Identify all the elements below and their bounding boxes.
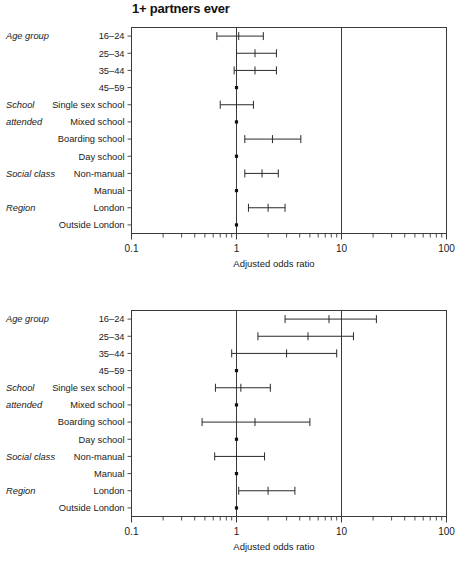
row-label: Single sex school — [52, 100, 124, 110]
row-label: Mixed school — [70, 117, 124, 127]
row-label: 45–59 — [99, 366, 125, 376]
row-label: 25–34 — [99, 49, 125, 59]
row-label: London — [93, 486, 124, 496]
row-label: Mixed school — [70, 400, 124, 410]
row-label: 35–44 — [99, 66, 125, 76]
plot-frame — [132, 311, 447, 517]
group-label: Region — [6, 203, 35, 213]
group-label: Region — [6, 486, 35, 496]
row-label: Day school — [79, 435, 125, 445]
row-label: 16–24 — [99, 31, 125, 41]
plot-frame — [132, 28, 447, 234]
row-label: Day school — [79, 152, 125, 162]
row-label: Non-manual — [74, 169, 125, 179]
group-label: Age group — [5, 31, 49, 41]
forest-plot-partners-last-5-years: 0.1110100Adjusted odds ratio16–2425–3435… — [0, 280, 475, 565]
group-label: School — [6, 100, 35, 110]
group-label: attended — [6, 117, 43, 127]
row-label: Boarding school — [58, 134, 125, 144]
x-axis-tick-label: 100 — [438, 526, 455, 537]
x-axis-tick-label: 0.1 — [125, 526, 139, 537]
x-axis-tick-label: 0.1 — [125, 243, 139, 254]
row-label: Non-manual — [74, 452, 125, 462]
row-label: London — [93, 203, 124, 213]
x-axis-title: Adjusted odds ratio — [233, 258, 314, 269]
group-label: attended — [6, 400, 43, 410]
chart-title-partners-ever: 1+ partners ever — [132, 1, 230, 16]
row-label: 45–59 — [99, 83, 125, 93]
row-label: Single sex school — [52, 383, 124, 393]
row-label: Outside London — [59, 503, 125, 513]
reference-point-marker — [235, 155, 238, 158]
x-axis-tick-label: 1 — [234, 243, 240, 254]
reference-point-marker — [235, 189, 238, 192]
x-axis-tick-label: 1 — [234, 526, 240, 537]
row-label: Boarding school — [58, 417, 125, 427]
reference-point-marker — [235, 120, 238, 123]
reference-point-marker — [235, 369, 238, 372]
x-axis-tick-label: 100 — [438, 243, 455, 254]
panel-partners-last-5-years: 1+ partners last 5 years 0.1110100Adjust… — [0, 280, 475, 565]
forest-plot-partners-ever: 0.1110100Adjusted odds ratio16–2425–3435… — [0, 0, 475, 280]
row-label: Manual — [94, 186, 125, 196]
x-axis-title: Adjusted odds ratio — [233, 541, 314, 552]
x-axis-tick-label: 10 — [336, 526, 348, 537]
row-label: 35–44 — [99, 349, 125, 359]
x-axis-tick-label: 10 — [336, 243, 348, 254]
row-label: 16–24 — [99, 314, 125, 324]
row-label: Outside London — [59, 220, 125, 230]
reference-point-marker — [235, 506, 238, 509]
reference-point-marker — [235, 223, 238, 226]
reference-point-marker — [235, 86, 238, 89]
reference-point-marker — [235, 403, 238, 406]
group-label: Social class — [6, 169, 55, 179]
reference-point-marker — [235, 472, 238, 475]
panel-partners-ever: 1+ partners ever 0.1110100Adjusted odds … — [0, 0, 475, 280]
reference-point-marker — [235, 438, 238, 441]
group-label: Social class — [6, 452, 55, 462]
row-label: Manual — [94, 469, 125, 479]
group-label: School — [6, 383, 35, 393]
group-label: Age group — [5, 314, 49, 324]
row-label: 25–34 — [99, 332, 125, 342]
